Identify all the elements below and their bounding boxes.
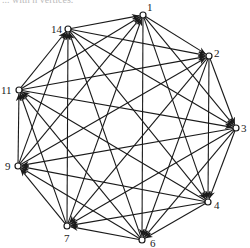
- edge-9-to-11: [18, 93, 19, 163]
- edge-14-to-4: [70, 31, 206, 199]
- edge-6-to-14: [69, 32, 141, 237]
- edge-6-to-9: [21, 168, 139, 239]
- vertex-label-1: 1: [147, 1, 153, 13]
- vertex-3: [233, 125, 239, 131]
- vertex-2: [206, 53, 212, 59]
- edge-7-to-9: [20, 169, 65, 224]
- edge-3-to-7: [70, 130, 233, 225]
- edge-11-to-3: [22, 91, 233, 128]
- vertex-label-6: 6: [150, 237, 156, 248]
- vertex-7: [64, 223, 70, 229]
- vertex-label-3: 3: [241, 122, 247, 134]
- vertex-label-4: 4: [214, 199, 220, 211]
- vertex-label-9: 9: [5, 160, 11, 172]
- edge-7-to-1: [68, 18, 142, 223]
- edge-2-to-6: [143, 59, 208, 237]
- edge-6-to-7: [70, 227, 139, 240]
- vertex-label-7: 7: [64, 232, 70, 244]
- edge-2-to-4: [208, 59, 209, 199]
- edges-layer: [18, 16, 235, 240]
- vertex-14: [65, 26, 71, 32]
- edge-1-to-6: [142, 18, 143, 237]
- edge-4-to-7: [70, 203, 205, 226]
- edge-4-to-6: [145, 203, 205, 238]
- vertex-11: [16, 87, 22, 93]
- edge-6-to-11: [21, 93, 140, 238]
- vertex-label-14: 14: [51, 23, 63, 35]
- vertex-label-11: 11: [1, 84, 12, 96]
- edge-9-to-2: [21, 58, 206, 165]
- vertex-label-2: 2: [214, 47, 220, 59]
- edge-9-to-14: [19, 32, 67, 163]
- edge-3-to-9: [21, 129, 233, 166]
- edge-11-to-2: [22, 57, 206, 90]
- edge-14-to-1: [71, 16, 140, 29]
- vertex-9: [15, 163, 21, 169]
- tournament-graph: 12346791114: [0, 0, 250, 248]
- vertex-6: [139, 237, 145, 243]
- vertex-1: [140, 12, 146, 18]
- edge-7-to-11: [20, 93, 66, 223]
- edge-11-to-14: [21, 32, 66, 88]
- edge-11-to-1: [22, 17, 140, 89]
- vertex-4: [205, 199, 211, 205]
